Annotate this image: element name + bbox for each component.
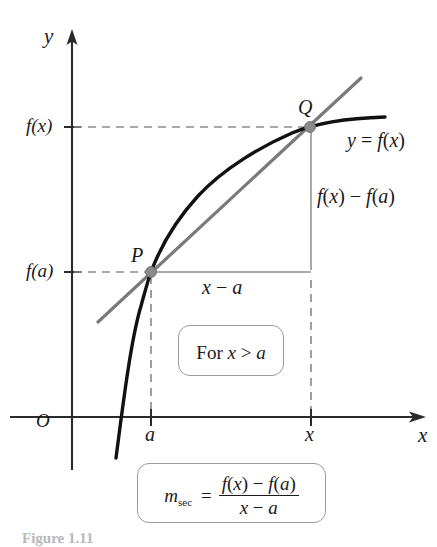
origin-label: O bbox=[36, 411, 50, 430]
formula-lhs-symbol: m bbox=[164, 485, 178, 506]
axis-group bbox=[10, 29, 426, 470]
point-q-label: Q bbox=[298, 97, 312, 117]
formula-box: msec = f(x) − f(a) x − a bbox=[137, 463, 326, 523]
tick-group bbox=[64, 127, 311, 426]
rise-label: f(x) − f(a) bbox=[317, 186, 395, 206]
y-tick-label-fx: f(x) bbox=[26, 116, 52, 135]
x-tick-label-a: a bbox=[145, 424, 155, 444]
point-p-label: P bbox=[131, 245, 143, 265]
curve-equation-label: y = f(x) bbox=[347, 130, 405, 150]
formula-equals-sign: = bbox=[201, 485, 212, 507]
condition-text: For x > a bbox=[179, 343, 283, 362]
x-tick-label-x: x bbox=[305, 424, 314, 444]
formula-lhs: msec bbox=[164, 485, 194, 507]
y-tick-label-fa: f(a) bbox=[26, 261, 53, 280]
formula-denominator: x − a bbox=[237, 496, 281, 518]
formula-lhs-subscript: sec bbox=[178, 496, 192, 508]
run-label: x − a bbox=[202, 277, 242, 297]
point-q-marker bbox=[305, 122, 316, 133]
condition-box: For x > a bbox=[178, 325, 284, 376]
y-axis-label: y bbox=[44, 26, 53, 47]
point-p-marker bbox=[146, 267, 157, 278]
x-axis-label: x bbox=[418, 425, 427, 446]
formula-numerator: f(x) − f(a) bbox=[219, 474, 299, 495]
figure-caption: Figure 1.11 bbox=[22, 530, 93, 547]
formula-fraction: f(x) − f(a) x − a bbox=[219, 474, 299, 518]
function-curve bbox=[116, 117, 385, 458]
formula-expression: msec = f(x) − f(a) x − a bbox=[138, 474, 325, 518]
